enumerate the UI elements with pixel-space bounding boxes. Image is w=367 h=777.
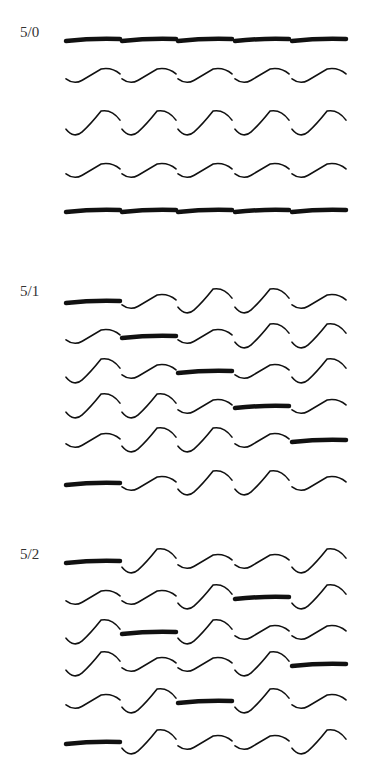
panel-label: 5/2 [20,546,39,563]
large-wave [292,324,346,348]
large-wave [66,111,120,135]
small-wave [292,164,346,178]
large-wave [122,549,176,573]
small-wave [122,69,176,83]
large-wave [178,620,232,644]
weave-svg [0,0,367,777]
small-wave [178,658,232,672]
large-wave [292,549,346,573]
small-wave [122,295,176,309]
small-wave [122,658,176,672]
small-wave [66,330,120,344]
float-bar [292,210,346,212]
float-bar [66,39,120,41]
large-wave [292,359,346,383]
large-wave [292,585,346,609]
small-wave [292,626,346,640]
float-bar [122,632,176,634]
small-wave [66,69,120,83]
float-bar [178,210,232,212]
large-wave [66,652,120,676]
weave-panel [66,289,346,495]
large-wave [122,730,176,754]
weave-panel [66,39,346,212]
small-wave [66,695,120,709]
small-wave [122,365,176,379]
large-wave [178,585,232,609]
small-wave [178,164,232,178]
small-wave [66,434,120,448]
float-bar [122,39,176,41]
panel-label: 5/0 [20,24,39,41]
large-wave [292,730,346,754]
float-bar [66,210,120,212]
large-wave [122,111,176,135]
small-wave [235,626,289,640]
float-bar [235,210,289,212]
float-bar [292,440,346,442]
small-wave [66,591,120,605]
panel-label: 5/1 [20,283,39,300]
small-wave [122,477,176,491]
float-bar [122,210,176,212]
large-wave [235,289,289,313]
large-wave [66,359,120,383]
small-wave [178,330,232,344]
small-wave [235,555,289,569]
float-bar [178,371,232,373]
float-bar [66,301,120,303]
large-wave [292,111,346,135]
large-wave [235,689,289,713]
large-wave [66,620,120,644]
small-wave [235,434,289,448]
small-wave [122,591,176,605]
float-bar [235,406,289,408]
float-bar [235,597,289,599]
small-wave [292,400,346,414]
weave-panel [66,549,346,754]
small-wave [235,69,289,83]
small-wave [178,400,232,414]
float-bar [66,483,120,485]
float-bar [178,39,232,41]
small-wave [292,295,346,309]
small-wave [235,365,289,379]
small-wave [235,736,289,750]
large-wave [122,689,176,713]
large-wave [178,111,232,135]
large-wave [235,324,289,348]
float-bar [178,701,232,703]
float-bar [122,336,176,338]
large-wave [178,289,232,313]
small-wave [292,695,346,709]
large-wave [122,428,176,452]
small-wave [178,69,232,83]
float-bar [292,664,346,666]
large-wave [122,394,176,418]
large-wave [235,111,289,135]
large-wave [178,471,232,495]
float-bar [292,39,346,41]
small-wave [66,164,120,178]
small-wave [178,555,232,569]
float-bar [66,742,120,744]
large-wave [235,471,289,495]
small-wave [292,477,346,491]
large-wave [66,394,120,418]
small-wave [292,69,346,83]
small-wave [178,736,232,750]
large-wave [178,428,232,452]
float-bar [235,39,289,41]
float-bar [66,561,120,563]
small-wave [235,164,289,178]
large-wave [235,652,289,676]
small-wave [122,164,176,178]
